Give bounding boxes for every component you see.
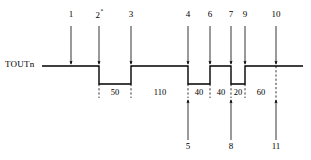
event-label-8: 8 [229,142,234,151]
event-label-3: 3 [129,10,134,19]
event-arrows-up [188,100,276,140]
timing-diagram: TOUTn 1 2* 3 4 6 7 9 10 50 110 40 40 20 … [0,0,311,160]
duration-label-40-first: 40 [195,88,204,97]
signal-label-toutn: TOUTn [5,60,34,69]
duration-label-40-second: 40 [217,88,226,97]
event-label-2: 2* [95,10,102,20]
duration-label-110: 110 [154,88,166,97]
waveform-trace [42,66,303,84]
event-arrows-down [71,26,276,64]
duration-label-60: 60 [257,88,266,97]
event-label-6: 6 [208,10,213,19]
event-label-1: 1 [69,10,74,19]
duration-label-20: 20 [234,88,243,97]
event-label-2-text: 2 [95,10,100,20]
event-label-10: 10 [272,10,281,19]
event-label-11: 11 [272,142,281,151]
event-label-2-superscript: * [100,8,103,14]
event-label-9: 9 [243,10,248,19]
timing-diagram-canvas [0,0,311,160]
event-label-7: 7 [229,10,234,19]
event-label-4: 4 [186,10,191,19]
duration-label-50: 50 [111,88,120,97]
event-label-5: 5 [186,142,191,151]
